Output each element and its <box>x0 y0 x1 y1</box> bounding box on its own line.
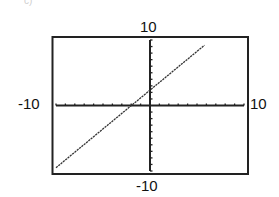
x-min-label: -10 <box>18 96 40 111</box>
y-min-label: -10 <box>136 178 158 193</box>
x-max-label: 10 <box>250 96 267 111</box>
y-max-label: 10 <box>140 19 157 34</box>
